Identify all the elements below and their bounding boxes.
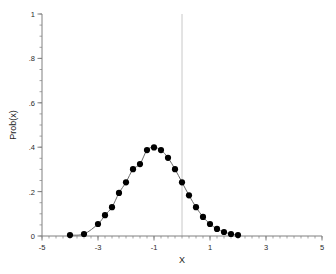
- data-point-marker: [95, 221, 101, 227]
- data-point-marker: [130, 166, 136, 172]
- data-point-marker: [172, 166, 178, 172]
- y-tick-label: 1: [31, 10, 35, 19]
- data-point-marker: [228, 231, 234, 237]
- series-line: [70, 147, 238, 235]
- y-tick-label: .2: [29, 188, 35, 197]
- x-tick-label: 5: [320, 243, 324, 252]
- data-point-marker: [81, 231, 87, 237]
- y-tick-label: 0: [31, 232, 35, 241]
- data-point-marker: [144, 147, 150, 153]
- data-point-marker: [179, 179, 185, 185]
- data-point-marker: [165, 155, 171, 161]
- data-point-marker: [158, 147, 164, 153]
- data-point-marker: [193, 204, 199, 210]
- y-tick-label: .8: [29, 54, 35, 63]
- x-tick-label: -1: [151, 243, 158, 252]
- y-tick-label: .4: [29, 143, 35, 152]
- data-point-marker: [102, 212, 108, 218]
- plot-canvas: -5-3-11350.2.4.6.81XProb(x): [0, 0, 336, 274]
- data-point-marker: [186, 192, 192, 198]
- data-point-marker: [109, 204, 115, 210]
- data-point-marker: [123, 179, 129, 185]
- x-tick-label: 3: [264, 243, 268, 252]
- data-point-marker: [221, 229, 227, 235]
- x-tick-label: -3: [95, 243, 102, 252]
- y-tick-label: .6: [29, 99, 35, 108]
- data-point-marker: [67, 232, 73, 238]
- data-point-marker: [116, 190, 122, 196]
- x-tick-label: -5: [39, 243, 46, 252]
- data-point-marker: [200, 214, 206, 220]
- data-point-marker: [235, 232, 241, 238]
- x-tick-label: 1: [208, 243, 212, 252]
- data-point-marker: [214, 226, 220, 232]
- probability-density-figure: -5-3-11350.2.4.6.81XProb(x): [0, 0, 336, 274]
- data-point-marker: [151, 144, 157, 150]
- data-point-marker: [137, 161, 143, 167]
- y-axis-title: Prob(x): [8, 110, 18, 140]
- page-artifact-text: [0, 258, 336, 274]
- data-point-marker: [207, 221, 213, 227]
